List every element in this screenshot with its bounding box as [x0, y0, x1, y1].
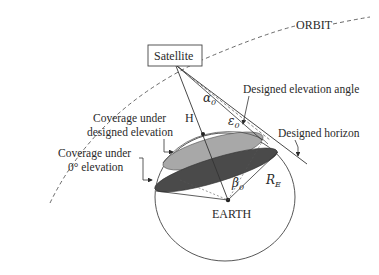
subsatellite-point: [201, 132, 205, 136]
radius-label: RE: [265, 173, 281, 189]
designed-horizon-arrow: [295, 140, 298, 156]
coverage-zero-label-line2: 0° elevation: [68, 161, 124, 173]
satellite-label: Satellite: [154, 49, 193, 63]
satellite-coverage-diagram: ORBIT Satellite α0 ε0 β0 RE H EARTH Desi…: [0, 0, 379, 275]
earth-label: EARTH: [212, 207, 252, 221]
alpha-label: α0: [203, 91, 216, 107]
coverage-zero-arrow: [139, 158, 152, 180]
beta-label: β0: [231, 176, 244, 192]
orbit-path-tail: [333, 17, 370, 24]
horizon-line-dashed: [177, 66, 270, 140]
elevation-line: [177, 66, 262, 140]
height-label: H: [185, 111, 194, 125]
orbit-label: ORBIT: [296, 18, 333, 32]
designed-elevation-angle-label: Designed elevation angle: [243, 83, 359, 96]
coverage-designed-label-line1: Coverage under: [93, 112, 166, 125]
designed-horizon-label: Designed horizon: [278, 127, 360, 140]
epsilon-label: ε0: [228, 114, 240, 130]
coverage-zero-label-line1: Coverage under: [58, 147, 131, 160]
coverage-designed-arrow: [164, 139, 173, 152]
coverage-designed-label-line2: designed elevation: [87, 126, 173, 139]
